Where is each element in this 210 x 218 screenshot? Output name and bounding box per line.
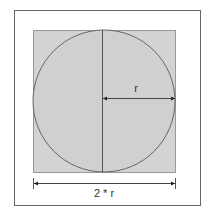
inscribed-circle	[33, 30, 175, 172]
diameter-label: 2 * r	[94, 187, 115, 199]
circle-in-square-diagram: r 2 * r	[0, 0, 210, 218]
radius-label: r	[134, 82, 138, 94]
